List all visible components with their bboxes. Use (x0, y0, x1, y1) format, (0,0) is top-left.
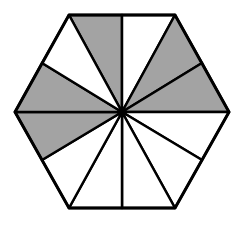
center-point (119, 109, 125, 115)
hexagon-fraction-diagram (0, 0, 232, 229)
